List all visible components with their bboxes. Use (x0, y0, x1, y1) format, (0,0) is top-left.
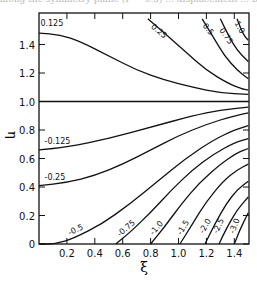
contour-label: -0.125 (45, 137, 71, 146)
contour-label: -2.5 (211, 217, 226, 235)
y-tick-label: 0.6 (19, 154, 35, 165)
contour-chart: 0.1250.250.50.751.0-0.125-0.25-0.5-0.75-… (0, 0, 257, 284)
x-axis-label: ξ (140, 259, 148, 275)
x-tick-label: 1.0 (171, 248, 187, 259)
contour-label: 0.25 (149, 22, 168, 40)
contour-label: 0.125 (40, 19, 63, 28)
contour-line (205, 181, 248, 244)
x-tick-label: 0.2 (59, 248, 75, 259)
contour-label: 1.0 (233, 20, 247, 36)
x-tick-label: 0.8 (143, 248, 159, 259)
contour-line (39, 113, 248, 186)
y-axis-label: η (5, 131, 20, 139)
x-tick-label: 1.2 (198, 248, 214, 259)
x-tick-label: 0.6 (115, 248, 131, 259)
y-tick-label: 1.4 (19, 40, 35, 51)
contour-label: -1.5 (175, 219, 191, 237)
y-tick-label: 1.2 (19, 68, 35, 79)
contour-label: -1.0 (148, 219, 165, 237)
contour-label: -0.5 (67, 223, 85, 238)
x-tick-label: 1.4 (226, 248, 242, 259)
y-tick-label: 1.0 (19, 97, 35, 108)
y-tick-label: 0.4 (19, 182, 35, 193)
contour-label: 0.5 (201, 21, 216, 37)
y-tick-label: 0 (29, 239, 35, 250)
y-tick-label: 0.8 (19, 125, 35, 136)
contour-label: -0.25 (45, 173, 66, 182)
y-tick-label: 0.2 (19, 211, 35, 222)
x-tick-label: 0.4 (87, 248, 103, 259)
contour-lines (39, 19, 248, 244)
contour-line (39, 107, 248, 150)
